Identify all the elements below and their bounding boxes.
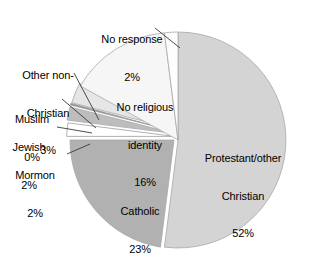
label-mormon-value: 2% xyxy=(4,207,66,220)
label-protestant-other-christian: Protestant/other Christian 52% xyxy=(191,127,295,265)
label-protestant-value: 52% xyxy=(191,227,295,240)
label-catholic-text: Catholic xyxy=(105,205,175,218)
label-mormon-text: Mormon xyxy=(4,169,66,182)
pie-chart: No response 2% Other non- Christian 3% M… xyxy=(0,0,309,269)
label-protestant-text1: Protestant/other xyxy=(191,152,295,165)
label-protestant-text2: Christian xyxy=(191,190,295,203)
label-mormon: Mormon 2% xyxy=(4,144,66,244)
label-no-response-text: No response xyxy=(86,33,178,46)
label-catholic-value: 23% xyxy=(105,243,175,256)
label-other-non-christian-text1: Other non- xyxy=(8,69,88,82)
label-catholic: Catholic 23% xyxy=(105,180,175,269)
label-no-religious-identity-text2: identity xyxy=(104,139,186,152)
label-no-religious-identity-text1: No religious xyxy=(104,101,186,114)
